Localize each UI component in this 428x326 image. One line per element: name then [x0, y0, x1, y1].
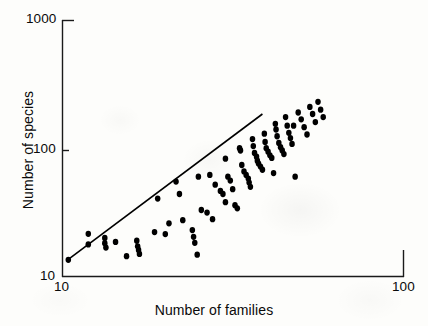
data-point — [318, 106, 324, 112]
data-point — [273, 126, 279, 132]
axis-frame — [62, 20, 404, 277]
data-point — [271, 170, 277, 176]
data-point — [103, 244, 109, 250]
data-point — [190, 227, 196, 233]
data-point — [86, 231, 92, 237]
data-point — [281, 151, 287, 157]
y-tick-label-1000: 1000 — [26, 11, 56, 26]
data-point — [199, 207, 205, 213]
data-point — [269, 155, 275, 161]
data-point — [66, 257, 72, 263]
data-point — [284, 123, 290, 129]
data-point — [163, 231, 169, 237]
data-point — [292, 174, 298, 180]
data-point — [262, 139, 268, 145]
data-point — [166, 220, 172, 226]
data-point — [251, 143, 257, 149]
data-point — [194, 252, 200, 258]
x-tick-label-100: 100 — [392, 279, 415, 294]
data-point — [228, 177, 234, 183]
data-point — [86, 241, 92, 247]
data-point — [155, 195, 161, 201]
y-tick-label-10: 10 — [40, 268, 55, 283]
data-point — [235, 205, 241, 211]
data-point — [301, 124, 307, 130]
data-point — [304, 131, 310, 137]
data-point — [196, 174, 202, 180]
data-point — [212, 182, 218, 188]
data-point — [207, 172, 213, 178]
data-point — [313, 119, 319, 125]
y-axis-title: Number of species — [20, 70, 36, 230]
data-point — [238, 147, 244, 153]
data-point — [295, 109, 301, 115]
x-tick-label-10: 10 — [54, 279, 69, 294]
data-point — [320, 114, 326, 120]
x-axis-title: Number of families — [0, 302, 428, 318]
data-point — [239, 162, 245, 168]
data-point — [291, 123, 297, 129]
data-point — [134, 238, 140, 244]
data-point — [289, 141, 295, 147]
data-point — [260, 167, 266, 173]
data-layer — [66, 99, 326, 263]
scatter-plot-canvas — [0, 0, 428, 326]
data-point — [307, 104, 313, 110]
data-point — [210, 216, 216, 222]
data-point — [288, 135, 294, 141]
data-point — [262, 130, 268, 136]
data-point — [177, 191, 183, 197]
data-point — [250, 136, 256, 142]
data-point — [248, 184, 254, 190]
data-point — [204, 209, 210, 215]
data-point — [315, 99, 321, 105]
data-point — [192, 240, 198, 246]
data-point — [283, 114, 289, 120]
data-point — [180, 217, 186, 223]
data-point — [223, 155, 229, 161]
data-point — [152, 229, 158, 235]
data-point — [230, 186, 236, 192]
data-point — [310, 111, 316, 117]
data-point — [273, 121, 279, 127]
data-point — [223, 199, 229, 205]
data-point — [274, 133, 280, 139]
data-point — [220, 191, 226, 197]
figure-root: 1000 100 10 10 100 Number of families Nu… — [0, 0, 428, 326]
data-point — [298, 116, 304, 122]
data-point — [113, 239, 119, 245]
y-tick-label-100: 100 — [33, 141, 56, 156]
data-point — [137, 251, 143, 257]
data-point — [124, 253, 130, 259]
data-point — [191, 234, 197, 240]
data-point — [173, 178, 179, 184]
